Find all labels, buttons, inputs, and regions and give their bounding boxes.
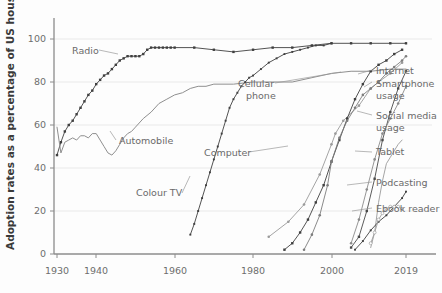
datapoint <box>401 59 404 62</box>
leader-smartphone <box>364 82 372 87</box>
x-tick-label-1930: 1930 <box>45 265 69 276</box>
datapoint <box>56 154 58 156</box>
datapoint <box>346 119 349 122</box>
datapoint <box>362 240 364 242</box>
datapoint <box>87 94 89 96</box>
datapoint <box>389 42 391 44</box>
label-radio: Radio <box>72 45 99 56</box>
right-callouts: Internet Smartphone usage Social media u… <box>375 65 439 214</box>
datapoint <box>358 104 361 107</box>
series-podcasting <box>354 191 407 251</box>
datapoint <box>350 246 352 248</box>
datapoint <box>162 46 164 48</box>
callout-smartphone-2: usage <box>376 90 405 101</box>
line-colour-tv <box>190 43 331 234</box>
datapoint <box>330 160 333 163</box>
label-automobile: Automobile <box>119 135 173 146</box>
datapoint <box>271 46 273 48</box>
callout-tablet: Tablet <box>375 146 405 157</box>
datapoint <box>405 55 408 58</box>
datapoint <box>397 102 400 105</box>
datapoint <box>126 55 128 57</box>
datapoint <box>229 107 231 109</box>
datapoint <box>79 107 81 109</box>
datapoint <box>334 132 337 135</box>
x-tick-label-2000: 2000 <box>320 265 344 276</box>
callout-ebook-reader: Ebook reader <box>376 203 439 214</box>
datapoint <box>232 51 234 53</box>
label-colour-tv: Colour TV <box>136 187 183 198</box>
datapoint <box>276 57 278 59</box>
datapoint <box>381 139 383 141</box>
datapoint <box>193 223 195 225</box>
callout-smartphone-1: Smartphone <box>376 78 435 89</box>
datapoint <box>166 46 168 48</box>
datapoint <box>75 113 77 115</box>
inline-annotations: Radio Automobile Colour TV Computer Cell… <box>72 45 276 198</box>
series-colour-tv <box>189 42 332 235</box>
datapoint <box>326 184 329 187</box>
x-tick-label-1940: 1940 <box>84 265 108 276</box>
datapoint <box>134 55 136 57</box>
callout-internet: Internet <box>376 65 414 76</box>
y-axis-title: Adoption rates as a percentage of US hou… <box>4 0 16 250</box>
datapoint <box>83 100 85 102</box>
datapoint <box>358 218 361 221</box>
leader-social-media <box>357 111 372 115</box>
datapoint <box>323 45 325 47</box>
leader-cellular-phone <box>275 72 341 83</box>
datapoint <box>146 49 148 51</box>
datapoint <box>405 191 407 193</box>
y-tick-label-20: 20 <box>34 205 46 216</box>
callout-social-media-2: usage <box>376 122 405 133</box>
datapoint <box>350 42 352 44</box>
datapoint <box>401 49 403 51</box>
datapoint <box>115 64 117 66</box>
y-tick-label-100: 100 <box>28 33 46 44</box>
line-radio <box>57 43 406 155</box>
datapoint <box>107 72 109 74</box>
datapoint <box>354 249 356 251</box>
label-cellular-phone-2: phone <box>246 90 276 101</box>
datapoint <box>99 79 101 81</box>
callout-social-media-1: Social media <box>376 110 437 121</box>
datapoint <box>201 197 203 199</box>
datapoint <box>197 210 199 212</box>
datapoint <box>303 248 306 251</box>
datapoint <box>315 201 317 203</box>
datapoint <box>233 98 235 100</box>
datapoint <box>68 124 70 126</box>
x-tick-label-1960: 1960 <box>163 265 187 276</box>
datapoint <box>173 46 175 48</box>
datapoint <box>307 47 309 49</box>
datapoint <box>268 62 270 64</box>
x-tick-label-1980: 1980 <box>241 265 265 276</box>
datapoint <box>71 120 73 122</box>
datapoint <box>260 68 262 70</box>
datapoint <box>252 49 254 51</box>
datapoint <box>252 75 254 77</box>
datapoint <box>373 158 376 161</box>
datapoint <box>91 89 93 91</box>
datapoint <box>291 46 293 48</box>
adoption-rates-chart: 100 80 60 40 20 0 1930 1940 1960 1980 20… <box>0 0 442 293</box>
datapoint <box>111 68 113 70</box>
datapoint <box>385 214 387 216</box>
datapoint <box>193 46 195 48</box>
datapoint <box>331 42 333 44</box>
datapoint <box>64 130 66 132</box>
chart-svg: 100 80 60 40 20 0 1930 1940 1960 1980 20… <box>0 0 442 293</box>
datapoint <box>189 234 191 236</box>
datapoint <box>342 119 345 122</box>
leader-computer <box>249 146 288 152</box>
datapoint <box>373 231 376 234</box>
datapoint <box>366 210 368 212</box>
datapoint <box>369 242 372 245</box>
datapoint <box>213 49 215 51</box>
datapoint <box>350 242 353 245</box>
datapoint <box>209 171 211 173</box>
datapoint <box>158 46 160 48</box>
datapoint <box>318 173 321 176</box>
datapoint <box>401 197 403 199</box>
datapoint <box>213 158 215 160</box>
